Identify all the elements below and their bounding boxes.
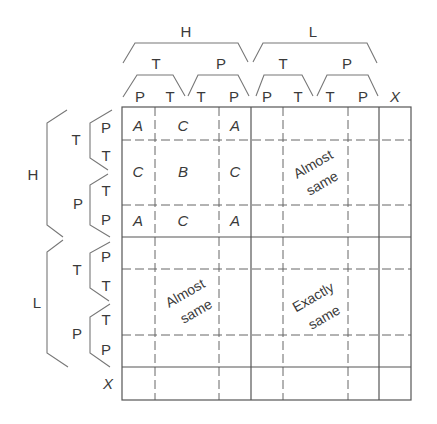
column-label-level2: T xyxy=(151,55,160,72)
region-ll-label: Exactly same xyxy=(289,279,343,333)
column-label-level3: T xyxy=(325,88,334,105)
matrix-grid xyxy=(122,107,411,400)
row-label-level3: T xyxy=(101,147,110,164)
column-bracket-h-t xyxy=(123,75,185,97)
cell-value: C xyxy=(230,163,241,180)
row-label-level3: T xyxy=(101,311,110,328)
column-label-level3: P xyxy=(358,88,368,105)
row-label-level3: P xyxy=(101,211,111,228)
row-label-level2: T xyxy=(71,131,80,148)
row-headers: H L T P T P P T T P P T T P X xyxy=(28,110,114,392)
row-label-level3: P xyxy=(101,119,111,136)
column-label-level3: P xyxy=(262,88,272,105)
column-label-level2: P xyxy=(216,55,226,72)
row-label-level3: P xyxy=(101,341,111,358)
cell-value: C xyxy=(178,212,189,229)
cell-value: B xyxy=(178,163,188,180)
cell-value: C xyxy=(133,163,144,180)
column-bracket-h xyxy=(123,43,248,63)
row-bracket-l xyxy=(47,240,68,367)
row-label-level3: T xyxy=(101,182,110,199)
column-label-level1: H xyxy=(181,23,192,40)
column-headers: H L T P T P P T T P P T T P X xyxy=(123,23,401,105)
column-label-level2: T xyxy=(278,55,287,72)
column-label-level3: P xyxy=(229,88,239,105)
cell-value: A xyxy=(132,212,143,229)
column-label-level3: T xyxy=(293,88,302,105)
column-label-level1: L xyxy=(309,23,317,40)
row-label-level2: T xyxy=(72,261,81,278)
region-lh-label: Almost same xyxy=(162,275,215,326)
row-label-level1: H xyxy=(28,166,39,183)
column-label-level3: T xyxy=(165,88,174,105)
row-label-level2: P xyxy=(72,325,82,342)
row-bracket-h xyxy=(47,110,67,237)
cell-value: C xyxy=(178,117,189,134)
cell-value: A xyxy=(229,117,240,134)
row-label-level3: T xyxy=(101,277,110,294)
similarity-matrix-diagram: H L T P T P P T T P P T T P X H L T P T … xyxy=(0,0,437,424)
row-label-level2: P xyxy=(73,195,83,212)
column-label-x: X xyxy=(389,88,401,105)
column-label-level3: P xyxy=(135,88,145,105)
row-label-level3: P xyxy=(101,248,111,265)
cell-value: A xyxy=(229,212,240,229)
region-hl-label: Almost same xyxy=(290,146,341,198)
column-label-level2: P xyxy=(342,55,352,72)
grid-border xyxy=(122,107,411,400)
column-label-level3: T xyxy=(196,88,205,105)
row-label-level1: L xyxy=(33,294,41,311)
row-label-x: X xyxy=(102,375,114,392)
cell-value: A xyxy=(132,117,143,134)
column-bracket-l xyxy=(253,43,377,63)
cells-hh: A C A C B C A C A xyxy=(132,117,241,229)
